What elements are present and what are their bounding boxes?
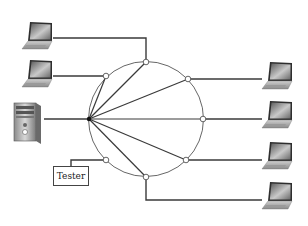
tester-label: Tester xyxy=(57,171,86,181)
laptop-right-2-icon xyxy=(262,101,292,128)
laptop-right-1-icon xyxy=(262,62,292,89)
ring-node-right xyxy=(200,116,206,122)
ring-node-lower-left xyxy=(103,157,109,163)
ring-node-top xyxy=(143,59,149,65)
network-diagram xyxy=(0,0,308,226)
ring-node-bottom xyxy=(143,174,149,180)
laptop-right-4-icon xyxy=(262,182,292,209)
tester-box: Tester xyxy=(53,166,89,186)
laptop-right-3-icon xyxy=(262,142,292,169)
wire-bottom-node-to-laptop-right-4 xyxy=(146,177,262,200)
ring-node-upper-right xyxy=(185,76,191,82)
laptop-left-2-icon xyxy=(22,60,52,87)
hub-point xyxy=(87,117,91,121)
ring-node-lower-right xyxy=(183,157,189,163)
wire-top-node-to-laptop-left-1 xyxy=(53,38,146,62)
laptop-left-1-icon xyxy=(22,22,52,49)
ring-node-upper-left xyxy=(103,73,109,79)
server-tower-icon xyxy=(14,103,41,144)
